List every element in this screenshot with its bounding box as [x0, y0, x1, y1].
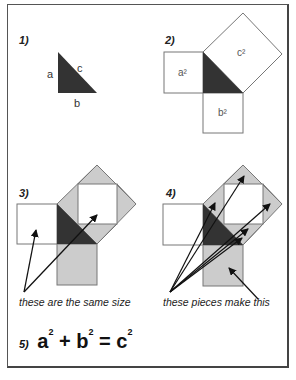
panel-3: 3) these are the same size	[17, 165, 136, 308]
panel-1: 1) a c b	[19, 34, 97, 109]
caption-same-size: these are the same size	[19, 296, 131, 308]
equation: 5) a2 + b2 = c2	[19, 330, 132, 353]
caption-pieces: these pieces make this	[163, 296, 271, 308]
eq-c: c	[116, 330, 127, 352]
step-5-label: 5)	[19, 338, 29, 350]
step-3-label: 3)	[19, 187, 29, 199]
side-c-label: c	[77, 62, 83, 74]
step-1-label: 1)	[19, 34, 29, 46]
eq-b: b	[76, 330, 88, 352]
panel-2: 2) a² b² c²	[164, 13, 282, 133]
side-a-label: a	[47, 68, 54, 80]
square-a-label: a²	[178, 67, 188, 78]
square-a	[17, 204, 57, 244]
square-c-label: c²	[237, 47, 246, 58]
inner-square	[224, 184, 263, 224]
panel-4: 4) these pieces make this	[163, 165, 282, 308]
eq-a: a	[37, 330, 48, 352]
side-b-label: b	[74, 97, 80, 109]
step-2-label: 2)	[164, 34, 175, 46]
pythagoras-diagram: 1) a c b 2) a² b² c² 3) these are the sa…	[0, 0, 296, 380]
eq-plus: +	[59, 330, 71, 352]
inner-square	[78, 184, 117, 224]
eq-equals: =	[99, 330, 111, 352]
square-b	[203, 245, 243, 286]
square-b-label: b²	[218, 107, 228, 118]
step-4-label: 4)	[165, 187, 176, 199]
